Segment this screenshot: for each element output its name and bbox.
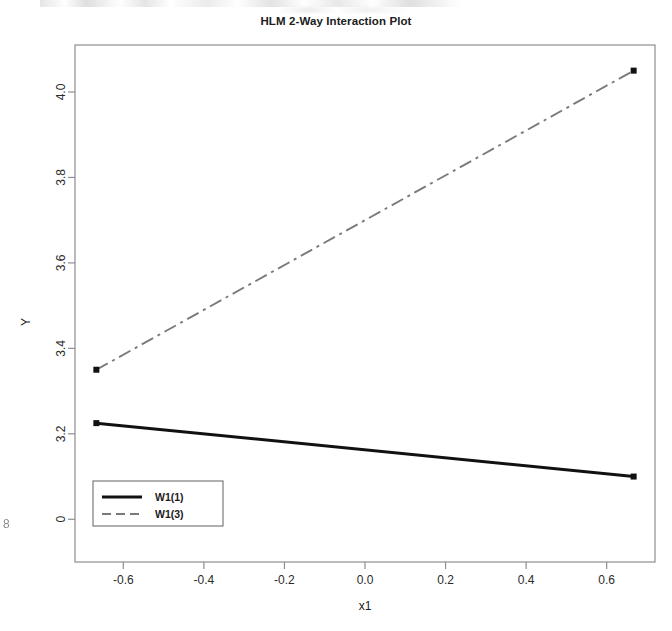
x-tick-label: 0.0: [357, 573, 374, 587]
y-tick-label: 3.2: [54, 425, 68, 442]
y-axis-tick-labels: 03.23.43.63.84.0: [54, 83, 68, 522]
data-point-marker: [93, 367, 99, 373]
data-point-marker: [93, 420, 99, 426]
x-tick-label: 0.4: [518, 573, 535, 587]
series-line-w13: [96, 71, 633, 370]
x-axis: -0.6-0.4-0.20.00.20.40.6 x1: [113, 562, 615, 613]
y-tick-label: 3.4: [54, 340, 68, 357]
x-tick-label: -0.6: [113, 573, 134, 587]
y-tick-label: 0: [54, 516, 68, 523]
x-axis-ticks: [123, 562, 606, 569]
interaction-plot: 03.23.43.63.84.0 Y -0.6-0.4-0.20.00.20.4…: [0, 0, 672, 631]
y-axis: 03.23.43.63.84.0 Y: [19, 83, 75, 522]
x-axis-title: x1: [359, 599, 372, 613]
chart-legend: W1(1)W1(3): [93, 481, 223, 526]
data-series-group: [93, 68, 636, 480]
data-point-marker: [631, 68, 637, 74]
y-tick-label: 3.8: [54, 169, 68, 186]
data-point-marker: [631, 474, 637, 480]
series-line-w11: [96, 423, 633, 476]
x-tick-label: 0.2: [437, 573, 454, 587]
legend-label: W1(1): [155, 491, 184, 503]
y-tick-label: 3.6: [54, 254, 68, 271]
y-axis-ticks: [68, 92, 75, 519]
x-tick-label: -0.2: [274, 573, 295, 587]
y-axis-title: Y: [19, 318, 33, 326]
y-tick-label: 4.0: [54, 83, 68, 100]
legend-label: W1(3): [155, 508, 184, 520]
x-tick-label: -0.4: [194, 573, 215, 587]
x-axis-tick-labels: -0.6-0.4-0.20.00.20.40.6: [113, 573, 615, 587]
x-tick-label: 0.6: [598, 573, 615, 587]
